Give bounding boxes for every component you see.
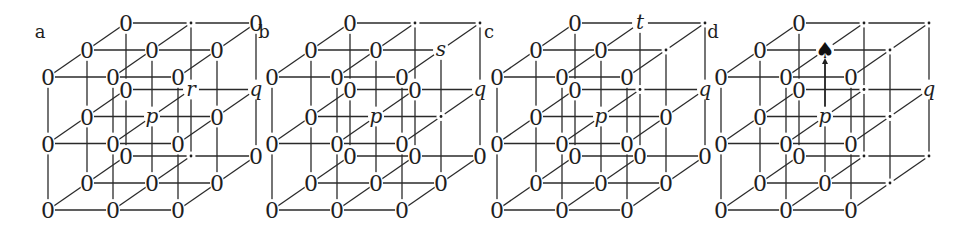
site-zero: 0 [844, 65, 858, 90]
empty-site-dot [639, 88, 642, 91]
site-zero: 0 [395, 198, 409, 223]
empty-site-dot [190, 22, 193, 25]
site-label-p: p [819, 104, 832, 128]
site-zero: 0 [106, 198, 120, 223]
site-zero: 0 [620, 65, 634, 90]
site-label-q: q [923, 77, 936, 101]
site-zero: 0 [210, 171, 224, 196]
site-zero: 0 [106, 132, 120, 157]
site-zero: 0 [490, 65, 504, 90]
empty-site-dot [889, 49, 892, 52]
site-zero: 0 [714, 132, 728, 157]
site-zero: 0 [568, 11, 582, 36]
site-zero: 0 [265, 198, 279, 223]
site-zero: 0 [555, 65, 569, 90]
site-zero: 0 [330, 132, 344, 157]
site-zero: 0 [343, 144, 357, 169]
site-zero: 0 [659, 105, 673, 130]
site-zero: 0 [753, 105, 767, 130]
site-zero: 0 [529, 38, 543, 63]
site-zero: 0 [844, 198, 858, 223]
site-zero: 0 [792, 11, 806, 36]
empty-site-dot [863, 88, 866, 91]
empty-site-dot [665, 49, 668, 52]
site-zero: 0 [106, 65, 120, 90]
site-zero: 0 [714, 198, 728, 223]
panel-label: a [35, 21, 46, 42]
site-zero: 0 [304, 38, 318, 63]
panel-a: a000rq000000p0000000000000 [35, 11, 264, 223]
site-zero: 0 [844, 132, 858, 157]
site-zero: 0 [792, 144, 806, 169]
site-zero: 0 [41, 65, 55, 90]
empty-site-dot [479, 22, 482, 25]
empty-site-dot [889, 115, 892, 118]
site-zero: 0 [395, 132, 409, 157]
site-zero: 0 [80, 171, 94, 196]
site-zero: 0 [620, 198, 634, 223]
site-zero: 0 [792, 78, 806, 103]
site-zero: 0 [145, 171, 159, 196]
empty-site-dot [704, 22, 707, 25]
site-zero: 0 [490, 198, 504, 223]
empty-site-dot [863, 155, 866, 158]
panels-group: a000rq000000p0000000000000b000q00000s0p0… [35, 10, 937, 223]
panel-label: c [484, 21, 494, 42]
site-zero: 0 [408, 78, 422, 103]
site-label-r: r [186, 77, 197, 101]
empty-site-dot [414, 22, 417, 25]
site-zero: 0 [304, 105, 318, 130]
site-label-p: p [370, 104, 383, 128]
site-zero: 0 [265, 132, 279, 157]
site-zero: 0 [698, 144, 712, 169]
arrow-p-to-spade [822, 58, 828, 107]
empty-site-dot [889, 182, 892, 185]
site-zero: 0 [369, 171, 383, 196]
site-zero: 0 [529, 171, 543, 196]
site-zero: 0 [171, 132, 185, 157]
site-zero: 0 [490, 132, 504, 157]
site-zero: 0 [753, 38, 767, 63]
site-label-p: p [146, 104, 159, 128]
site-zero: 0 [779, 65, 793, 90]
site-zero: 0 [330, 198, 344, 223]
site-zero: 0 [568, 144, 582, 169]
empty-site-dot [863, 22, 866, 25]
empty-site-dot [928, 22, 931, 25]
site-zero: 0 [210, 105, 224, 130]
site-zero: 0 [119, 11, 133, 36]
site-label-p: p [595, 104, 608, 128]
empty-site-dot [928, 155, 931, 158]
site-zero: 0 [620, 132, 634, 157]
site-zero: 0 [818, 171, 832, 196]
site-zero: 0 [568, 78, 582, 103]
site-zero: 0 [41, 132, 55, 157]
empty-site-dot [440, 115, 443, 118]
panel-label: d [707, 21, 719, 42]
panel-b: b000q00000s0p000000000000 [258, 11, 488, 223]
site-zero: 0 [779, 132, 793, 157]
site-zero: 0 [80, 38, 94, 63]
site-zero: 0 [555, 132, 569, 157]
site-zero: 0 [210, 38, 224, 63]
site-zero: 0 [408, 144, 422, 169]
site-zero: 0 [343, 78, 357, 103]
site-zero: 0 [119, 78, 133, 103]
site-zero: 0 [395, 65, 409, 90]
site-zero: 0 [119, 144, 133, 169]
site-zero: 0 [265, 65, 279, 90]
site-label-q: q [250, 77, 263, 101]
lattice-figure: a000rq000000p0000000000000b000q00000s0p0… [0, 0, 967, 234]
panel-d: d00q00♠0p00000000000 [707, 11, 937, 223]
site-zero: 0 [594, 171, 608, 196]
site-zero: 0 [304, 171, 318, 196]
panel-c: c0t0q000000p0000000000000 [484, 10, 713, 223]
site-zero: 0 [369, 38, 383, 63]
site-zero: 0 [171, 198, 185, 223]
site-label-s: s [436, 37, 446, 61]
empty-site-dot [190, 155, 193, 158]
site-label-q: q [474, 77, 487, 101]
site-zero: 0 [714, 65, 728, 90]
site-label-t: t [636, 10, 645, 34]
site-zero: 0 [434, 171, 448, 196]
